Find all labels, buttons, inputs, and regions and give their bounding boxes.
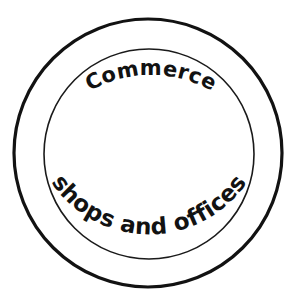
concentric-ring-diagram: Commerce shops and offices (0, 0, 296, 307)
diagram-canvas: Commerce shops and offices (0, 0, 296, 307)
